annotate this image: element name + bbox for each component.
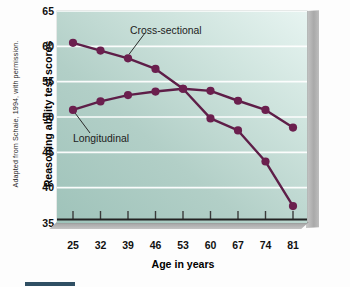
- chart-svg: [57, 11, 307, 223]
- source-credit: Adapted from Schaie, 1994, with permissi…: [11, 0, 20, 188]
- y-tick-label: 45: [34, 147, 54, 158]
- footer-rule: [25, 282, 75, 286]
- y-axis-tick-labels: 65605550454035: [33, 0, 54, 287]
- x-tick-label: 46: [143, 239, 169, 251]
- x-tick-label: 53: [170, 239, 196, 251]
- data-point: [124, 54, 132, 62]
- data-point: [289, 124, 297, 132]
- x-axis-tick-labels: 253239465360677481: [57, 239, 309, 255]
- data-point: [261, 106, 269, 114]
- data-point: [124, 91, 132, 99]
- data-point: [69, 106, 77, 114]
- leader-line-cross-sectional: [129, 33, 145, 54]
- y-tick-label: 40: [34, 182, 54, 193]
- data-point: [69, 39, 77, 47]
- x-tick-label: 60: [198, 239, 224, 251]
- x-tick-label: 25: [60, 239, 86, 251]
- y-tick-label: 50: [34, 112, 54, 123]
- data-point: [96, 46, 104, 54]
- data-point: [151, 87, 159, 95]
- x-tick-label: 81: [280, 239, 306, 251]
- x-tick-label: 32: [88, 239, 114, 251]
- data-point: [151, 65, 159, 73]
- x-tick-label: 39: [115, 239, 141, 251]
- series-line: [73, 43, 293, 206]
- data-point: [261, 157, 269, 165]
- series-line: [73, 89, 293, 128]
- y-tick-label: 65: [34, 6, 54, 17]
- data-point: [234, 97, 242, 105]
- plot-area: [57, 11, 307, 223]
- x-tick-label: 67: [225, 239, 251, 251]
- series-longitudinal: [69, 85, 297, 132]
- annotation-cross-sectional: Cross-sectional: [130, 25, 202, 36]
- plot-side-face: [306, 10, 319, 228]
- data-point: [179, 85, 187, 93]
- chart-figure: Adapted from Schaie, 1994, with permissi…: [0, 0, 350, 287]
- data-point: [289, 202, 297, 210]
- data-point: [206, 87, 214, 95]
- y-tick-label: 55: [34, 76, 54, 87]
- data-point: [96, 97, 104, 105]
- plot-3d-block: [57, 11, 319, 233]
- data-point: [234, 126, 242, 134]
- plot-bottom-face: [49, 222, 309, 229]
- series-cross-sectional: [69, 39, 297, 210]
- y-tick-label: 60: [34, 41, 54, 52]
- annotation-longitudinal: Longitudinal: [73, 133, 129, 144]
- x-axis-title: Age in years: [57, 258, 309, 270]
- leader-line-longitudinal: [75, 113, 90, 133]
- x-tick-label: 74: [253, 239, 279, 251]
- data-point: [206, 114, 214, 122]
